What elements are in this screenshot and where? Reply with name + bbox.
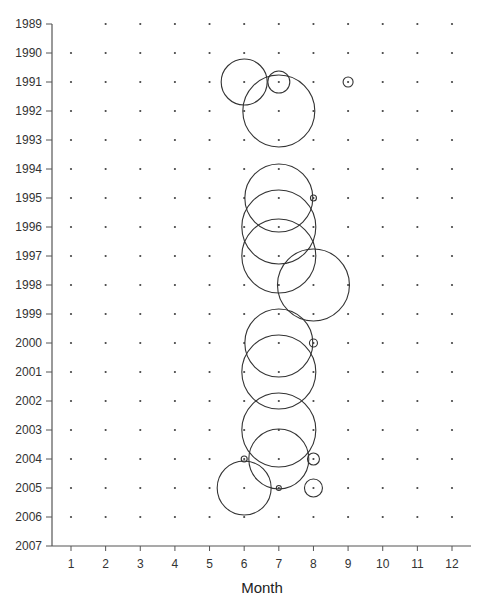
grid-dot	[312, 429, 314, 431]
grid-dot	[347, 487, 349, 489]
grid-dot	[312, 52, 314, 54]
grid-dot	[139, 81, 141, 83]
grid-dot	[208, 81, 210, 83]
grid-dot	[105, 23, 107, 25]
grid-dot	[70, 429, 72, 431]
grid-dot	[347, 313, 349, 315]
grid-dot	[105, 110, 107, 112]
grid-dot	[174, 284, 176, 286]
grid-dot	[243, 81, 245, 83]
grid-dot	[105, 168, 107, 170]
grid-dot	[105, 197, 107, 199]
grid-dot	[174, 168, 176, 170]
grid-dot	[416, 81, 418, 83]
grid-dot	[416, 400, 418, 402]
grid-dot	[451, 284, 453, 286]
grid-dot	[243, 284, 245, 286]
grid-dot	[416, 284, 418, 286]
grid-dot	[208, 284, 210, 286]
y-tick-label: 2004	[15, 452, 42, 466]
grid-dot	[139, 168, 141, 170]
grid-dot	[451, 342, 453, 344]
grid-dot	[70, 458, 72, 460]
grid-dot	[139, 52, 141, 54]
grid-dot	[312, 139, 314, 141]
grid-dot	[139, 342, 141, 344]
grid-dot	[174, 516, 176, 518]
grid-dot	[243, 23, 245, 25]
grid-dot	[139, 313, 141, 315]
grid-dot	[174, 52, 176, 54]
grid-dot	[451, 197, 453, 199]
grid-dot	[139, 110, 141, 112]
grid-dot	[105, 284, 107, 286]
grid-dot	[174, 458, 176, 460]
grid-dot	[416, 342, 418, 344]
y-axis-ticks: 1989199019911992199319941995199619971998…	[15, 17, 52, 553]
grid-dot	[382, 139, 384, 141]
grid-dot	[105, 139, 107, 141]
grid-dot	[174, 110, 176, 112]
grid-dot	[174, 429, 176, 431]
grid-dot	[174, 487, 176, 489]
grid-dot	[416, 429, 418, 431]
grid-dot	[451, 110, 453, 112]
bubble-chart: 1989199019911992199319941995199619971998…	[0, 0, 487, 609]
grid-dot	[347, 110, 349, 112]
x-tick-label: 8	[310, 557, 317, 571]
grid-dot	[208, 487, 210, 489]
grid-dot	[278, 197, 280, 199]
grid-dot	[208, 139, 210, 141]
grid-dot	[105, 226, 107, 228]
grid-dot	[382, 168, 384, 170]
y-tick-label: 1998	[15, 278, 42, 292]
grid-dot	[208, 458, 210, 460]
y-tick-label: 2005	[15, 481, 42, 495]
grid-dot	[451, 400, 453, 402]
grid-dot	[174, 81, 176, 83]
x-tick-label: 11	[411, 557, 424, 571]
y-tick-label: 1994	[15, 162, 42, 176]
grid-dot	[347, 400, 349, 402]
grid-dot	[70, 255, 72, 257]
grid-dot	[382, 81, 384, 83]
grid-dot	[105, 516, 107, 518]
grid-dot	[347, 81, 349, 83]
x-tick-label: 4	[172, 557, 179, 571]
grid-dot	[382, 429, 384, 431]
x-tick-label: 5	[206, 557, 213, 571]
grid-dot	[416, 139, 418, 141]
grid-dot	[382, 52, 384, 54]
grid-dot	[208, 168, 210, 170]
grid-dot	[208, 255, 210, 257]
grid-dot	[139, 458, 141, 460]
grid-dot	[139, 139, 141, 141]
grid-dot	[70, 284, 72, 286]
grid-dot	[70, 313, 72, 315]
grid-dot	[208, 400, 210, 402]
grid-dot	[416, 487, 418, 489]
x-tick-label: 1	[68, 557, 75, 571]
grid-dot	[105, 458, 107, 460]
grid-dot	[382, 197, 384, 199]
grid-dot	[243, 255, 245, 257]
grid-dot	[416, 52, 418, 54]
grid-dot	[451, 81, 453, 83]
grid-dot	[139, 371, 141, 373]
grid-dot	[278, 458, 280, 460]
grid-dot	[278, 52, 280, 54]
grid-dot	[312, 23, 314, 25]
grid-dot	[70, 168, 72, 170]
grid-dot	[416, 197, 418, 199]
grid-dot	[312, 168, 314, 170]
grid-dot	[174, 139, 176, 141]
y-tick-label: 1992	[15, 104, 42, 118]
grid-dot	[416, 23, 418, 25]
grid-dot	[139, 487, 141, 489]
bubble-series	[217, 59, 353, 515]
grid-dot	[243, 458, 245, 460]
grid-dot	[278, 168, 280, 170]
grid-dot	[243, 226, 245, 228]
x-tick-label: 12	[445, 557, 459, 571]
grid-dot	[278, 81, 280, 83]
